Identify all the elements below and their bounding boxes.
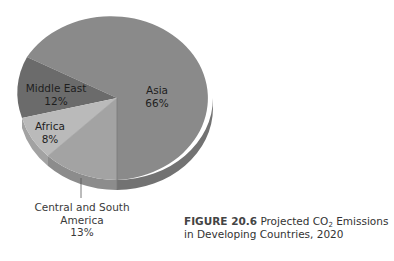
label-middle-east-value: 12% [26, 95, 87, 108]
caption-text-a: Projected CO [260, 215, 328, 227]
figure-number: FIGURE 20.6 [184, 215, 257, 227]
label-asia-value: 66% [145, 97, 168, 110]
label-csa-line2: America [34, 214, 129, 227]
label-asia: Asia 66% [145, 84, 168, 110]
figure-caption: FIGURE 20.6 Projected CO2 Emissions in D… [184, 215, 388, 241]
label-middle-east-name: Middle East [26, 82, 87, 95]
label-africa-name: Africa [35, 120, 65, 133]
caption-text-b: Emissions [333, 215, 389, 227]
label-central-south-america: Central and South America 13% [34, 201, 129, 239]
label-africa-value: 8% [35, 133, 65, 146]
caption-line1: FIGURE 20.6 Projected CO2 Emissions [184, 215, 388, 228]
label-middle-east: Middle East 12% [26, 82, 87, 108]
label-csa-value: 13% [34, 226, 129, 239]
label-africa: Africa 8% [35, 120, 65, 146]
label-asia-name: Asia [145, 84, 168, 97]
caption-line2: in Developing Countries, 2020 [184, 228, 388, 241]
label-csa-line1: Central and South [34, 201, 129, 214]
